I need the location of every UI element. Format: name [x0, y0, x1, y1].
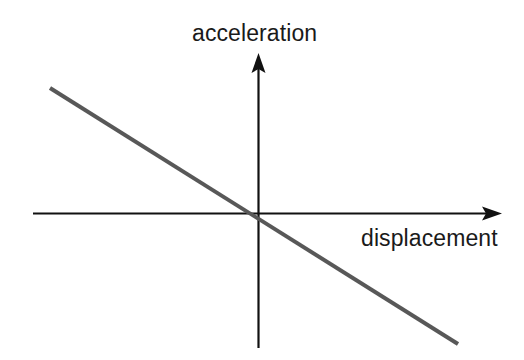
graph-canvas	[0, 0, 524, 360]
figure-root: acceleration displacement	[0, 0, 524, 360]
y-axis-label: acceleration	[192, 22, 317, 45]
x-axis-label: displacement	[361, 227, 498, 250]
x-axis-group	[33, 207, 502, 221]
y-axis-group	[252, 53, 266, 348]
acceleration-displacement-line	[50, 88, 458, 344]
data-series-group	[50, 88, 458, 344]
